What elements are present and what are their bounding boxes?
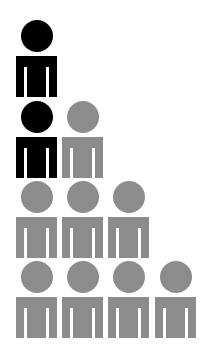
leg-gap	[46, 228, 49, 258]
person-head	[67, 261, 99, 293]
person-head	[21, 261, 53, 293]
leg-gap	[138, 308, 141, 338]
person-body	[62, 217, 103, 258]
person-icon	[108, 261, 149, 341]
person-head	[21, 181, 53, 213]
person-head	[160, 261, 192, 293]
leg-gap	[116, 308, 119, 338]
person-icon	[16, 261, 57, 341]
leg-gap	[92, 228, 95, 258]
leg-gap	[24, 67, 27, 97]
person-body	[108, 297, 149, 338]
person-icon	[16, 181, 57, 261]
person-head	[67, 101, 99, 133]
person-body	[16, 217, 57, 258]
leg-gap	[24, 308, 27, 338]
leg-gap	[116, 228, 119, 258]
person-body	[62, 137, 103, 178]
leg-gap	[163, 308, 166, 338]
person-body	[62, 297, 103, 338]
person-head	[21, 20, 53, 52]
person-body	[16, 297, 57, 338]
leg-gap	[92, 308, 95, 338]
person-head	[113, 261, 145, 293]
person-icon	[16, 20, 57, 100]
leg-gap	[46, 308, 49, 338]
person-icon	[155, 261, 196, 341]
person-body	[155, 297, 196, 338]
leg-gap	[92, 148, 95, 178]
leg-gap	[70, 148, 73, 178]
person-icon	[62, 181, 103, 261]
person-icon	[108, 181, 149, 261]
leg-gap	[46, 67, 49, 97]
leg-gap	[24, 148, 27, 178]
person-head	[67, 181, 99, 213]
person-icon	[16, 101, 57, 181]
person-body	[108, 217, 149, 258]
leg-gap	[46, 148, 49, 178]
leg-gap	[138, 228, 141, 258]
person-body	[16, 56, 57, 97]
person-icon	[62, 101, 103, 181]
leg-gap	[70, 308, 73, 338]
person-head	[21, 101, 53, 133]
leg-gap	[185, 308, 188, 338]
leg-gap	[24, 228, 27, 258]
person-head	[113, 181, 145, 213]
person-icon	[62, 261, 103, 341]
leg-gap	[70, 228, 73, 258]
person-body	[16, 137, 57, 178]
